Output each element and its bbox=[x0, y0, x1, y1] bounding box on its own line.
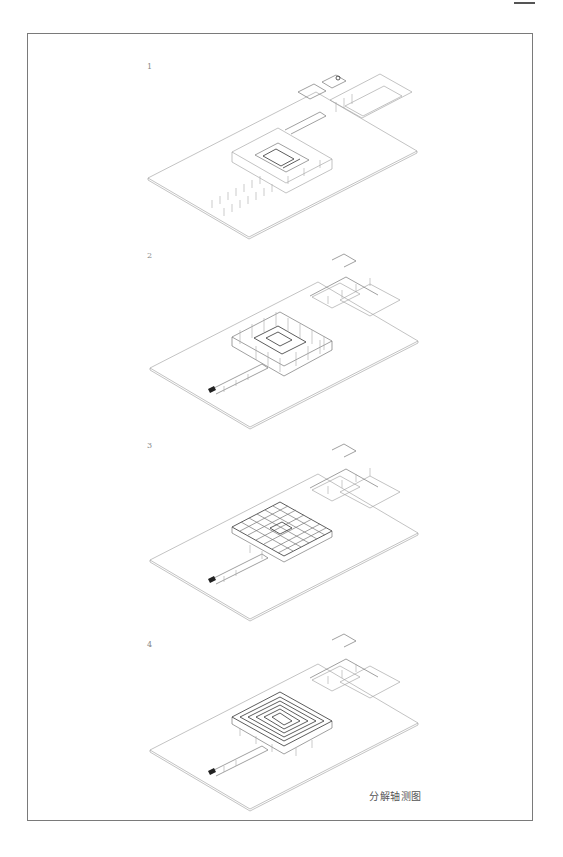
drawing-caption: 分解轴测图 bbox=[369, 788, 422, 803]
axonometric-stage-4 bbox=[0, 0, 563, 857]
